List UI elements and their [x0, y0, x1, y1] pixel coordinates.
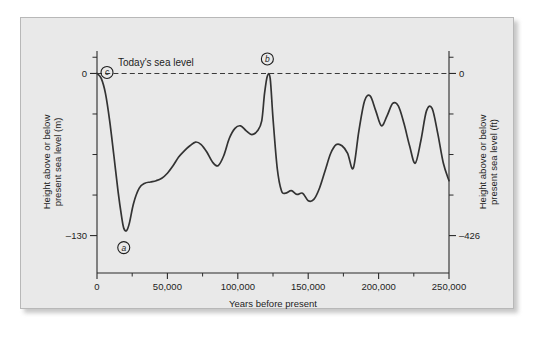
todays-sea-level-label: Today's sea level	[118, 57, 194, 68]
x-axis-tick-labels: 050,000100,000150,000200,000250,000	[94, 281, 466, 292]
axes-group	[97, 51, 449, 273]
annotation-marker-label-c: c	[105, 67, 110, 77]
x-tick-label: 150,000	[291, 281, 325, 292]
x-tick-label: 0	[94, 281, 99, 292]
y-right-tick-label: –426	[459, 230, 480, 241]
x-tick-label: 100,000	[221, 281, 255, 292]
y-axis-left-tick-labels: 0–130	[66, 68, 87, 241]
y-axis-left-title: Height above or belowpresent sea level (…	[41, 115, 63, 210]
x-tick-label: 200,000	[361, 281, 395, 292]
annotation-marker-label-a: a	[121, 243, 126, 253]
y-axis-right-ticks	[449, 57, 456, 235]
y-axis-right-title: Height above or belowpresent sea level (…	[477, 115, 499, 210]
sea-level-chart: 050,000100,000150,000200,000250,000 0–13…	[21, 18, 515, 310]
y-right-tick-label: 0	[459, 68, 464, 79]
x-axis-ticks	[97, 273, 449, 279]
x-tick-label: 50,000	[153, 281, 182, 292]
y-axis-left-ticks	[90, 57, 97, 235]
x-tick-label: 250,000	[432, 281, 466, 292]
sea-level-curve	[97, 73, 449, 230]
curve-annotations: abc	[101, 53, 273, 254]
annotation-marker-label-b: b	[265, 54, 270, 64]
figure-root: 050,000100,000150,000200,000250,000 0–13…	[0, 0, 546, 338]
figure-panel: 050,000100,000150,000200,000250,000 0–13…	[20, 17, 514, 309]
x-axis-title: Years before present	[229, 298, 317, 309]
y-left-tick-label: 0	[82, 68, 87, 79]
y-left-tick-label: –130	[66, 230, 87, 241]
